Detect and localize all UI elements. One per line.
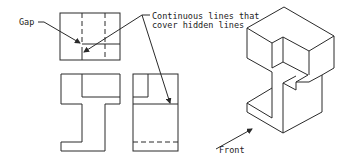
front-annotation: Front (216, 129, 252, 155)
orthographic-drawing: Gap Continuous lines that cover hidden l… (0, 0, 354, 164)
front-view (61, 74, 120, 151)
continuous-lines-annotation: Continuous lines that cover hidden lines (84, 11, 259, 103)
isometric-view (247, 7, 334, 133)
front-label: Front (219, 145, 245, 155)
gap-label: Gap (19, 17, 34, 27)
continuous-lines-label-2: cover hidden lines (152, 20, 244, 30)
side-view (133, 74, 178, 151)
gap-annotation: Gap (19, 17, 80, 43)
